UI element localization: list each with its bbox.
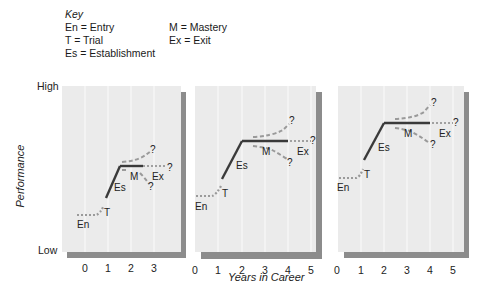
svg-text:0: 0 [82, 262, 88, 274]
label-mastery: M [130, 171, 138, 182]
label-establishment: Es [236, 160, 248, 171]
panel-background [338, 86, 464, 252]
svg-text:3: 3 [151, 262, 157, 274]
label-entry: En [77, 219, 89, 230]
svg-text:1: 1 [105, 262, 111, 274]
label-unknown-down: ? [287, 157, 293, 168]
svg-text:1: 1 [358, 264, 364, 276]
label-unknown-up: ? [431, 97, 437, 108]
svg-text:4: 4 [427, 264, 433, 276]
svg-text:5: 5 [308, 264, 314, 276]
career-stage-charts: En T Es M Ex ? ? ? 0 1 2 3 En T [0, 0, 479, 289]
label-unknown-up: ? [289, 115, 295, 126]
svg-text:1: 1 [215, 264, 221, 276]
label-establishment: Es [378, 142, 390, 153]
x-ticks-panel-3: 0 1 2 3 4 5 [334, 264, 456, 276]
x-ticks-panel-1: 0 1 2 3 [82, 262, 157, 274]
label-trial: T [104, 207, 110, 218]
svg-text:0: 0 [192, 264, 198, 276]
svg-text:0: 0 [334, 264, 340, 276]
x-ticks-panel-2: 0 1 2 3 4 5 [192, 264, 314, 276]
label-exit: Ex [297, 146, 309, 157]
svg-text:2: 2 [128, 262, 134, 274]
svg-text:5: 5 [450, 264, 456, 276]
label-mastery: M [404, 128, 412, 139]
svg-text:3: 3 [262, 264, 268, 276]
label-unknown-up: ? [150, 144, 156, 155]
svg-text:2: 2 [239, 264, 245, 276]
label-trial: T [364, 169, 370, 180]
label-exit: Ex [439, 128, 451, 139]
label-unknown-down: ? [430, 139, 436, 150]
svg-text:3: 3 [404, 264, 410, 276]
label-entry: En [337, 182, 349, 193]
label-unknown-flat: ? [310, 135, 316, 146]
label-unknown-down: ? [148, 181, 154, 192]
label-mastery: M [262, 146, 270, 157]
chart-panel-3: En T Es M Ex ? ? ? 0 1 2 3 4 5 [334, 86, 469, 276]
label-unknown-flat: ? [453, 117, 459, 128]
label-trial: T [222, 188, 228, 199]
label-exit: Ex [152, 171, 164, 182]
svg-text:4: 4 [285, 264, 291, 276]
chart-panel-2: En T Es M Ex ? ? ? 0 1 2 3 4 5 [192, 86, 322, 276]
label-unknown-flat: ? [167, 162, 173, 173]
chart-panel-1: En T Es M Ex ? ? ? 0 1 2 3 [62, 86, 186, 274]
label-establishment: Es [114, 182, 126, 193]
label-entry: En [195, 201, 207, 212]
panel-background [195, 86, 316, 252]
svg-text:2: 2 [381, 264, 387, 276]
